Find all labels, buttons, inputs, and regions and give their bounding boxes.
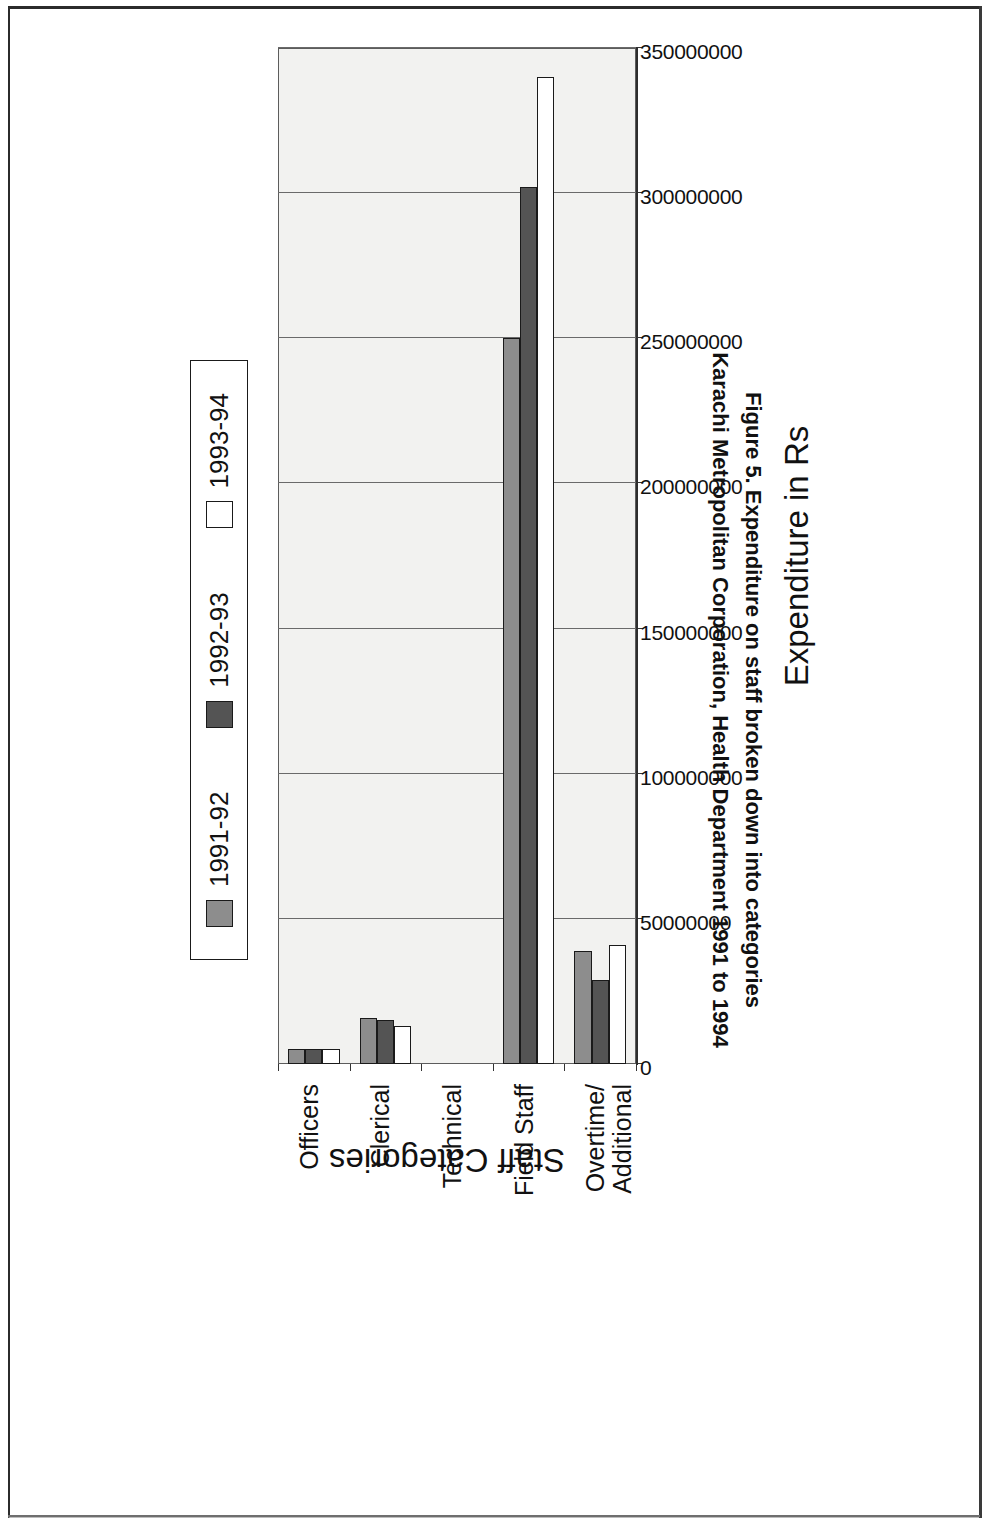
value-axis-line bbox=[636, 47, 638, 1065]
value-axis-tick-label: 0 bbox=[640, 1056, 651, 1080]
value-axis-tick-label: 300000000 bbox=[640, 185, 742, 209]
gridline bbox=[278, 628, 636, 629]
value-axis-title: Expenditure in Rs bbox=[778, 48, 816, 1064]
gridline bbox=[278, 337, 636, 338]
bar-1992-93-fieldstaff bbox=[520, 187, 537, 1064]
plot-background bbox=[278, 48, 636, 1064]
legend-swatch-1992-93 bbox=[206, 701, 233, 728]
legend-swatch-1993-94 bbox=[206, 501, 233, 528]
bar-1993-94-overtimeadditional bbox=[609, 945, 626, 1064]
legend-label-1993-94: 1993-94 bbox=[204, 393, 235, 488]
category-axis-title: Staff Categories bbox=[287, 1141, 607, 1179]
bar-1991-92-officers bbox=[288, 1050, 305, 1065]
bar-1993-94-officers bbox=[322, 1050, 339, 1065]
bar-1991-92-fieldstaff bbox=[503, 338, 520, 1064]
bar-1993-94-clerical bbox=[394, 1026, 411, 1064]
legend-item-1992-93: 1992-93 bbox=[204, 592, 235, 727]
chart-legend: 1991-92 1992-93 1993-94 bbox=[190, 360, 248, 960]
gridline bbox=[278, 773, 636, 774]
caption-line-2: Karachi Metropolitan Corporation, Health… bbox=[704, 230, 737, 1170]
scanned-figure-page: 1991-92 1992-93 1993-94 0 bbox=[0, 0, 988, 1531]
figure-caption: Figure 5. Expenditure on staff broken do… bbox=[770, 230, 771, 231]
legend-label-1991-92: 1991-92 bbox=[204, 792, 235, 887]
gridline bbox=[278, 482, 636, 483]
legend-item-1993-94: 1993-94 bbox=[204, 393, 235, 528]
gridline bbox=[278, 918, 636, 919]
gridline bbox=[278, 192, 636, 193]
bar-chart-figure: 1991-92 1992-93 1993-94 0 bbox=[178, 240, 778, 1260]
figure-rotated-wrapper: 1991-92 1992-93 1993-94 0 bbox=[0, 0, 988, 1531]
category-axis-tick bbox=[636, 1064, 637, 1071]
gridline bbox=[278, 47, 636, 48]
value-axis-tick-label: 350000000 bbox=[640, 40, 742, 64]
bar-1993-94-fieldstaff bbox=[537, 77, 554, 1064]
caption-line-1: Figure 5. Expenditure on staff broken do… bbox=[737, 230, 770, 1170]
bar-1992-93-clerical bbox=[377, 1020, 394, 1064]
bar-1992-93-officers bbox=[305, 1050, 322, 1065]
legend-item-1991-92: 1991-92 bbox=[204, 792, 235, 927]
bar-1991-92-clerical bbox=[360, 1018, 377, 1064]
legend-swatch-1991-92 bbox=[206, 900, 233, 927]
bar-1991-92-overtimeadditional bbox=[574, 951, 591, 1064]
bar-1992-93-overtimeadditional bbox=[592, 980, 609, 1064]
plot-area-wrapper bbox=[278, 48, 636, 1064]
legend-label-1992-93: 1992-93 bbox=[204, 592, 235, 687]
